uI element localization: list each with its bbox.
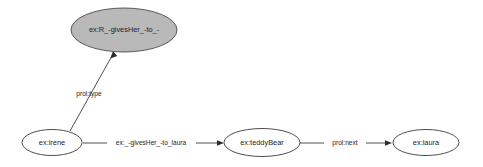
graph-canvas: prol:type ex:_-givesHer_-to_laura prol:n… [0, 0, 483, 167]
node-irene-label: ex:irene [39, 138, 65, 147]
edge-prol-next[interactable]: prol:next [300, 139, 392, 147]
edge-prol-next-label: prol:next [332, 139, 357, 147]
edge-prol-type-label: prol:type [76, 90, 102, 98]
node-irene[interactable]: ex:irene [22, 130, 82, 156]
node-laura-label: ex:laura [413, 138, 440, 147]
graph-svg: prol:type ex:_-givesHer_-to_laura prol:n… [0, 0, 483, 167]
edge-gives-her-to-laura-label: ex:_-givesHer_-to_laura [116, 139, 187, 147]
node-teddybear-label: ex:teddyBear [240, 138, 284, 147]
node-laura[interactable]: ex:laura [393, 130, 459, 156]
node-statement-label: ex:R_-givesHer_-to_- [89, 25, 160, 34]
node-statement[interactable]: ex:R_-givesHer_-to_- [71, 8, 177, 52]
edge-prol-type[interactable]: prol:type [70, 51, 117, 131]
node-teddybear[interactable]: ex:teddyBear [224, 129, 300, 157]
edge-gives-her-to-laura[interactable]: ex:_-givesHer_-to_laura [83, 139, 224, 147]
edge-prol-next-arrowhead [385, 140, 392, 146]
edge-gives-her-to-laura-arrowhead [217, 140, 224, 146]
